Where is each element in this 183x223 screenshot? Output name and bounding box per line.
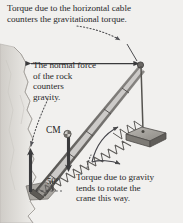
- caption-cable-torque: Torque due to the horizontal cable count…: [7, 3, 131, 24]
- label-boom-angle: 50°: [47, 176, 59, 186]
- leader-normal-caption: [31, 99, 48, 146]
- label-center-of-mass: CM: [46, 125, 61, 135]
- caption-normal-force: The normal force of the rock counters gr…: [33, 60, 96, 102]
- center-of-mass-marker: [64, 130, 71, 137]
- caption-gravity-torque: Torque due to gravity tends to rotate th…: [76, 172, 154, 204]
- hoist-cable: [141, 66, 143, 131]
- crane-torque-figure: Torque due to the horizontal cable count…: [0, 0, 183, 223]
- leader-cable-caption: [77, 26, 137, 61]
- suspended-load: [126, 127, 166, 147]
